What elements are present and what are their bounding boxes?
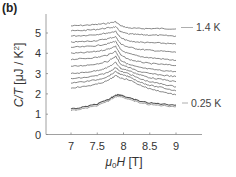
x-axis-title: μ0H [T] xyxy=(104,155,142,170)
y-tick-label: 2 xyxy=(35,88,41,100)
data-curve xyxy=(71,51,176,72)
x-tick-label: 8 xyxy=(120,140,126,152)
y-tick-label: 3 xyxy=(35,68,41,80)
x-tick-label: 7 xyxy=(68,140,74,152)
data-curve xyxy=(71,46,176,66)
data-curves xyxy=(71,21,176,110)
data-curve xyxy=(71,75,176,95)
y-tick-label: 4 xyxy=(35,47,41,59)
chart: 01234577.588.59μ0H [T]C/T [μJ / K2] 1.4 … xyxy=(0,0,236,177)
data-curve xyxy=(71,96,176,111)
x-tick-label: 9 xyxy=(173,140,179,152)
y-tick-label: 0 xyxy=(35,129,41,141)
temp-label-top: 1.4 K xyxy=(196,21,221,33)
temp-label-bottom: 0.25 K xyxy=(191,97,221,109)
data-curve xyxy=(71,68,176,87)
y-axis-title: C/T [μJ / K2] xyxy=(12,43,26,108)
x-tick-label: 7.5 xyxy=(90,140,105,152)
data-curve xyxy=(71,71,176,91)
axes: 01234577.588.59μ0H [T]C/T [μJ / K2] xyxy=(12,14,202,170)
y-tick-label: 5 xyxy=(35,27,41,39)
data-curve xyxy=(71,95,176,110)
data-curve xyxy=(71,21,176,29)
x-tick-label: 8.5 xyxy=(142,140,157,152)
annotations: 1.4 K0.25 K xyxy=(181,21,221,109)
data-curve xyxy=(71,27,176,37)
y-tick-label: 1 xyxy=(35,108,41,120)
